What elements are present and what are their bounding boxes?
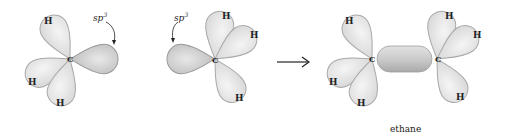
hydrogen-atom: H [329,77,338,87]
hydrogen-atom: H [473,30,482,40]
sp3-lobe [70,44,118,73]
sp3-lobe [167,44,215,73]
ethane-formation-diagram: C H H H sp3 C H H H sp3 [0,0,505,137]
pointer-arrow [173,22,178,40]
sigma-bond-orbital [377,46,432,72]
ethane-molecule: C C H H H H H H ethane [323,10,485,134]
hydrogen-atom: H [357,98,366,108]
hydrogen-atom: H [345,16,354,26]
pointer-arrowhead [171,38,175,43]
hydrogen-atom: H [456,92,465,102]
sp3-label: sp3 [174,11,188,23]
pointer-arrowhead [112,40,116,45]
hydrogen-atom: H [222,11,231,21]
carbon-atom: C [369,54,375,64]
hydrogen-atom: H [44,16,53,26]
sp3-label: sp3 [93,11,107,23]
hydrogen-atom: H [235,93,244,103]
left-carbon-fragment: C H H H sp3 [21,10,118,109]
hydrogen-atom: H [56,98,65,108]
ethane-caption: ethane [390,124,421,134]
middle-carbon-fragment: C H H H sp3 [167,10,262,108]
carbon-atom: C [212,55,218,65]
reaction-arrow [277,57,309,67]
pointer-arrow [106,22,115,42]
hydrogen-atom: H [28,77,37,87]
hydrogen-atom: H [250,30,259,40]
hydrogen-atom: H [445,11,454,21]
carbon-atom: C [435,54,441,64]
carbon-atom: C [67,54,73,64]
